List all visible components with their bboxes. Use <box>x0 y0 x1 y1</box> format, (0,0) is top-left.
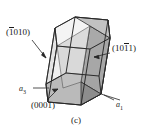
label-1010-rest: 010 <box>14 27 28 37</box>
figure-caption: (c) <box>71 116 81 125</box>
label-1010-bar-char: 1 <box>9 28 14 37</box>
label-1011-prefix: (10 <box>112 43 124 53</box>
label-plane-0001: (0001) <box>31 101 55 110</box>
label-1010-suffix: ) <box>27 27 30 37</box>
label-1011-suffix: ) <box>133 43 136 53</box>
label-axis-a1: a1 <box>116 101 123 111</box>
label-plane-1011: (1011) <box>112 44 136 53</box>
label-plane-1010: (1010) <box>6 28 30 37</box>
axis-a1-sub: 1 <box>120 105 123 111</box>
crystal-figure <box>0 0 158 131</box>
label-1011-bar-char: 1 <box>124 44 129 53</box>
label-axis-a3: a3 <box>19 85 26 95</box>
axis-a3-sub: 3 <box>23 89 26 95</box>
